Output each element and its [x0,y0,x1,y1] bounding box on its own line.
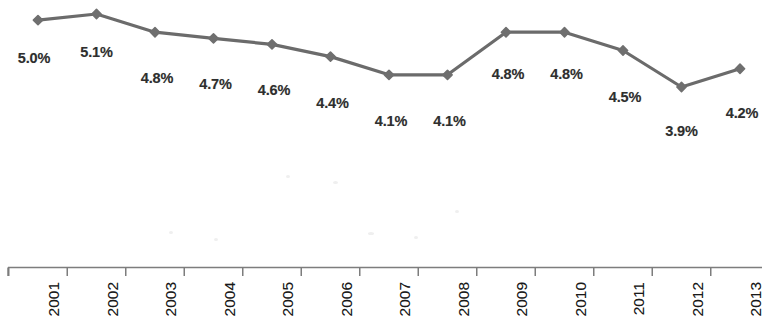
data-point-marker [209,34,218,43]
data-point-label: 4.7% [199,76,232,92]
x-axis-tick-label: 2009 [513,282,531,316]
data-point-marker [384,70,393,79]
data-point-label: 4.6% [258,82,291,98]
data-point-label: 5.0% [18,50,51,66]
data-point-marker [92,9,101,18]
data-point-label: 3.9% [665,123,698,139]
data-point-label: 4.8% [141,70,174,86]
data-point-label: 4.1% [433,113,466,129]
x-axis-tick-label: 2006 [338,282,356,316]
data-point-marker [735,64,744,73]
x-axis-tick-label: 2008 [455,282,473,316]
x-axis-tick-label: 2013 [747,282,765,316]
x-axis-tick-label: 2001 [45,282,63,316]
data-point-marker [150,28,159,37]
data-point-label: 4.5% [609,89,642,105]
data-point-marker [326,52,335,61]
x-axis-ticks [8,268,711,277]
x-axis-tick-label: 2010 [572,282,590,316]
plot-area: 5.0%5.1%4.8%4.7%4.6%4.4%4.1%4.1%4.8%4.8%… [0,0,765,265]
data-point-marker [560,28,569,37]
data-point-label: 4.1% [375,113,408,129]
data-point-label: 4.2% [726,105,759,121]
data-point-label: 4.8% [492,66,525,82]
x-axis-tick-label: 2012 [689,282,707,316]
data-point-marker [33,15,42,24]
x-axis-tick-label: 2002 [104,282,122,316]
data-point-marker [267,40,276,49]
line-chart: 5.0%5.1%4.8%4.7%4.6%4.4%4.1%4.1%4.8%4.8%… [0,0,765,335]
series-line-svg [0,0,765,265]
x-axis-tick-label: 2003 [162,282,180,316]
data-point-label: 4.8% [550,66,583,82]
x-axis-tick-label: 2011 [630,282,648,315]
data-point-label: 5.1% [80,44,113,60]
x-axis: 2001200220032004200520062007200820092010… [0,265,765,335]
x-axis-tick-label: 2004 [221,282,239,316]
x-axis-tick-label: 2007 [396,282,414,316]
x-axis-tick-label: 2005 [279,282,297,316]
data-point-label: 4.4% [316,95,349,111]
